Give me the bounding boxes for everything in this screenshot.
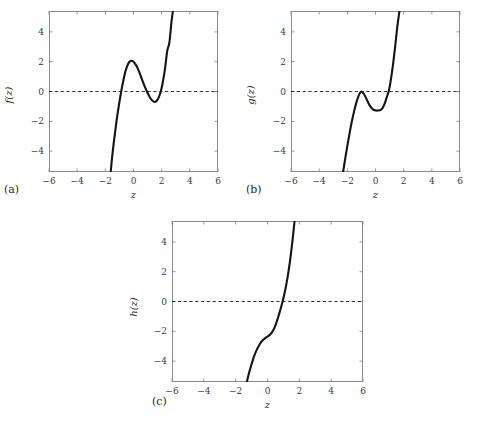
panel-label: (c)	[152, 396, 167, 407]
x-tick-label: 0	[265, 387, 271, 396]
x-tick-label: −4	[197, 387, 210, 396]
x-axis-title: z	[265, 400, 270, 410]
x-tick-label: −2	[229, 387, 242, 396]
x-tick-label: 6	[360, 387, 366, 396]
y-tick-label: −4	[154, 357, 167, 366]
x-tick-label: 2	[296, 387, 302, 396]
y-tick-label: 4	[161, 237, 167, 246]
y-tick-label: 0	[161, 297, 167, 306]
x-tick-label: 4	[328, 387, 334, 396]
plot-canvas	[0, 0, 484, 422]
y-tick-label: −2	[154, 327, 167, 336]
y-tick-label: 2	[161, 267, 167, 276]
plot-panel-c: −6−4−20246420−2−4zh(z)(c)	[0, 0, 484, 422]
x-tick-label: −6	[165, 387, 178, 396]
y-axis-title: h(z)	[129, 297, 139, 317]
